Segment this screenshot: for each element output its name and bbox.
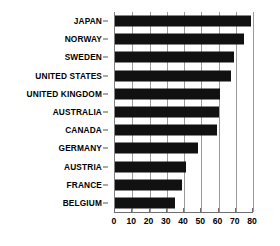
bar: [115, 88, 220, 99]
bar: [115, 125, 217, 136]
category-label: CANADA: [65, 126, 102, 135]
value-tick-label: 10: [126, 216, 136, 226]
value-tick-label: 0: [112, 216, 117, 226]
value-axis: 01020304050607080: [114, 212, 252, 246]
category-label: SWEDEN: [65, 53, 102, 62]
category-tick: [103, 75, 108, 76]
value-tick-label: 40: [178, 216, 188, 226]
category-label: AUSTRALIA: [53, 108, 102, 117]
category-label: JAPAN: [74, 17, 102, 26]
category-tick: [103, 202, 108, 203]
value-tick: [166, 208, 167, 213]
category-tick: [103, 112, 108, 113]
bar: [115, 143, 198, 154]
category-label: GERMANY: [59, 144, 102, 153]
bar: [115, 107, 219, 118]
bar-chart: JAPANNORWAYSWEDENUNITED STATESUNITED KIN…: [0, 0, 280, 246]
value-tick: [218, 208, 219, 213]
category-tick: [103, 39, 108, 40]
category-tick: [103, 57, 108, 58]
category-tick: [103, 130, 108, 131]
category-tick: [103, 166, 108, 167]
category-label: NORWAY: [65, 35, 102, 44]
bar: [115, 70, 231, 81]
value-tick-label: 70: [230, 216, 240, 226]
bar: [115, 179, 182, 190]
plot-area: [114, 12, 253, 212]
value-tick: [114, 208, 115, 213]
category-tick: [103, 148, 108, 149]
value-tick: [200, 208, 201, 213]
category-label: UNITED KINGDOM: [27, 89, 102, 98]
value-tick-label: 50: [195, 216, 205, 226]
value-tick: [183, 208, 184, 213]
bar: [115, 34, 244, 45]
category-tick: [103, 93, 108, 94]
value-tick: [252, 208, 253, 213]
value-tick-label: 60: [213, 216, 223, 226]
value-tick: [131, 208, 132, 213]
bar: [115, 16, 251, 27]
value-tick: [235, 208, 236, 213]
bar: [115, 161, 186, 172]
category-label: FRANCE: [67, 180, 102, 189]
value-tick: [149, 208, 150, 213]
value-tick-label: 80: [247, 216, 257, 226]
category-axis: JAPANNORWAYSWEDENUNITED STATESUNITED KIN…: [0, 12, 108, 212]
value-tick-label: 20: [144, 216, 154, 226]
category-tick: [103, 21, 108, 22]
category-label: AUSTRIA: [64, 162, 102, 171]
category-label: UNITED STATES: [35, 71, 102, 80]
bar: [115, 52, 234, 63]
category-tick: [103, 184, 108, 185]
category-label: BELGIUM: [63, 198, 102, 207]
bar: [115, 197, 175, 208]
gridline: [253, 12, 254, 212]
value-tick-label: 30: [161, 216, 171, 226]
